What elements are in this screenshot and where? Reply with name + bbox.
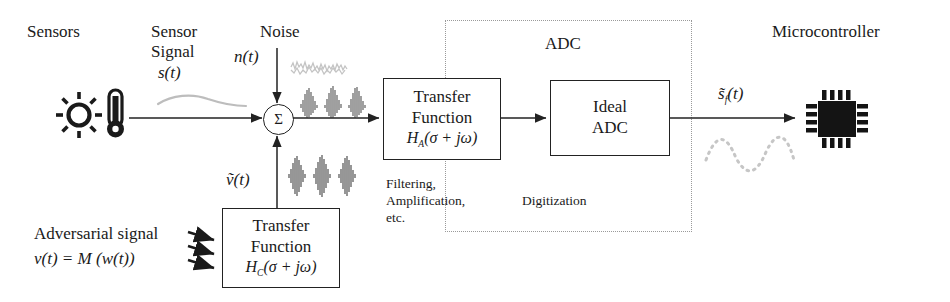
analog-caption-line3: etc. <box>386 210 465 227</box>
diagram-canvas: Sensors Sensor Signal s(t) Noise n(t) AD… <box>0 0 950 302</box>
analog-stage-caption: Filtering, Amplification, etc. <box>386 176 465 227</box>
injection-arrows-icon <box>0 0 950 302</box>
analog-caption-line1: Filtering, <box>386 176 465 193</box>
analog-caption-line2: Amplification, <box>386 193 465 210</box>
digital-stage-caption: Digitization <box>522 193 587 210</box>
